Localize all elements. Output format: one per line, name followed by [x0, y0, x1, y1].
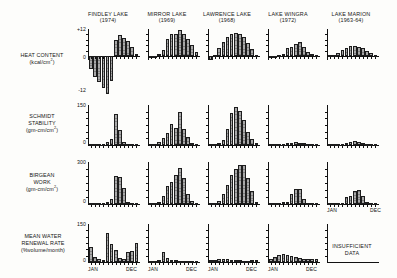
- bar: [290, 47, 294, 56]
- x-axis-tick: [116, 263, 117, 265]
- column-header-mirror-lake: MIRROR LAKE (1969): [137, 11, 197, 24]
- panel-birgean-work-lake-marion: [327, 162, 379, 204]
- x-axis-tick: [151, 57, 152, 59]
- x-axis-tick: [116, 146, 117, 148]
- x-axis-tick: [292, 205, 293, 207]
- x-axis-tick: [163, 57, 164, 59]
- panel-mean-water-renewal-rate-lake-marion: [327, 224, 379, 262]
- x-axis-tick: [124, 57, 125, 59]
- y-axis-tick: [206, 183, 208, 184]
- x-axis-tick: [347, 57, 348, 59]
- bar: [234, 107, 238, 145]
- x-axis-tick: [120, 57, 121, 59]
- x-axis-tick: [163, 146, 164, 148]
- x-axis-tick: [211, 205, 212, 207]
- x-axis-tick: [151, 205, 152, 207]
- xaxis-label-jan-mirror: JAN: [148, 266, 158, 272]
- y-axis-tick: [266, 190, 268, 191]
- y-axis-tick: [206, 118, 208, 119]
- x-axis-tick: [163, 263, 164, 265]
- x-axis-tick: [99, 263, 100, 265]
- xaxis-label-dec-marion: DEC: [370, 207, 381, 213]
- y-axis-tick: [206, 40, 208, 41]
- xaxis-label-dec-mirror: DEC: [186, 266, 197, 272]
- x-axis-tick: [283, 205, 284, 207]
- x-axis-tick: [176, 57, 177, 59]
- bar: [110, 244, 114, 262]
- x-axis-tick: [196, 57, 197, 59]
- y-axis-tick: [266, 125, 268, 126]
- x-axis-tick: [99, 205, 100, 207]
- panel-birgean-work-lake-wingra: [268, 162, 320, 204]
- x-axis-tick: [275, 57, 276, 59]
- x-axis-tick: [116, 205, 117, 207]
- x-axis-tick: [338, 146, 339, 148]
- x-axis-tick: [283, 57, 284, 59]
- x-axis-tick: [271, 205, 272, 207]
- x-axis-tick: [192, 146, 193, 148]
- bar: [246, 132, 250, 145]
- bar: [166, 258, 170, 262]
- panel-birgean-work-findley-lake: [88, 162, 140, 204]
- y-axis-tick: [325, 243, 327, 244]
- x-axis-tick: [292, 263, 293, 265]
- bar: [294, 142, 298, 145]
- bar: [114, 40, 118, 56]
- x-axis-tick: [308, 205, 309, 207]
- x-axis-tick: [136, 57, 137, 59]
- bar: [226, 259, 230, 262]
- bar: [357, 47, 361, 56]
- x-axis-tick: [283, 263, 284, 265]
- bar: [102, 260, 106, 262]
- x-axis-tick: [232, 146, 233, 148]
- panel-heat-content-lawrence-lake: [208, 29, 260, 97]
- x-axis-tick: [228, 205, 229, 207]
- x-axis-tick: [312, 146, 313, 148]
- bar: [217, 48, 221, 56]
- x-axis-tick: [334, 57, 335, 59]
- bar: [186, 194, 190, 204]
- bar: [93, 56, 97, 77]
- bar: [122, 259, 126, 262]
- x-axis-tick: [232, 205, 233, 207]
- bar: [110, 139, 114, 145]
- x-axis-tick: [236, 263, 237, 265]
- y-axis-tick: [86, 237, 88, 238]
- panel-schmidt-stability-findley-lake: [88, 105, 140, 145]
- x-axis-tick: [124, 263, 125, 265]
- x-axis-tick: [99, 146, 100, 148]
- bar: [106, 56, 110, 94]
- bar: [174, 128, 178, 145]
- bar: [162, 252, 166, 262]
- y-axis-tick: [266, 249, 268, 250]
- y-axis-tick: [86, 243, 88, 244]
- x-axis-tick: [279, 263, 280, 265]
- panel-mean-water-renewal-rate-mirror-lake: [148, 224, 200, 262]
- y-axis-tick: [86, 176, 88, 177]
- x-axis-tick: [351, 57, 352, 59]
- x-axis-tick: [232, 57, 233, 59]
- bar: [213, 260, 217, 262]
- bar: [336, 53, 340, 56]
- x-axis-tick: [223, 57, 224, 59]
- bar: [357, 142, 361, 145]
- bar: [242, 120, 246, 145]
- y-axis-tick: [86, 249, 88, 250]
- row-label-unit: (%volume/month): [0, 247, 86, 254]
- column-header-name: LAWRENCE LAKE: [203, 11, 251, 17]
- x-axis-tick: [363, 146, 364, 148]
- bar: [282, 54, 286, 56]
- x-axis-tick: [120, 205, 121, 207]
- x-axis-tick: [184, 146, 185, 148]
- y-axis-tick: [206, 138, 208, 139]
- column-header-name: FINDLEY LAKE: [88, 11, 128, 17]
- y-axis: [327, 105, 328, 145]
- y-axis-tick: [86, 169, 88, 170]
- y-axis-tick: [86, 230, 88, 231]
- bar: [341, 50, 345, 56]
- bar: [97, 56, 101, 82]
- bar: [130, 251, 134, 262]
- y-axis-tick: [146, 51, 148, 52]
- x-axis-tick: [279, 146, 280, 148]
- y-axis-tick: [325, 125, 327, 126]
